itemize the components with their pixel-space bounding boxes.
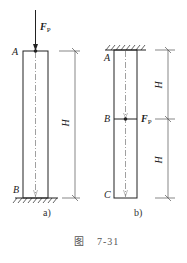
point-label-b-middle: B: [104, 114, 110, 124]
point-label-a-bottom: B: [13, 185, 19, 195]
hatch-b: [106, 45, 145, 50]
dimension-label-b-lower: H: [154, 156, 164, 163]
load-label-a: FP: [40, 22, 51, 34]
hatch-a: [13, 198, 57, 203]
panel-b: [105, 45, 175, 201]
figure-canvas: [0, 0, 187, 263]
panel-a: [13, 10, 80, 203]
figure-caption: 图7-31: [74, 237, 119, 247]
point-a-dot: [34, 49, 38, 53]
point-label-a-top: A: [12, 47, 18, 57]
caption-prefix: 图: [74, 236, 85, 247]
dimension-b: [155, 47, 175, 201]
sublabel-a: a): [43, 208, 51, 218]
point-b-dot: [124, 117, 128, 121]
dimension-label-b-upper: H: [154, 81, 164, 88]
point-label-b-top: A: [104, 53, 110, 63]
load-label-b: FP: [141, 114, 152, 126]
point-label-b-bottom: C: [104, 190, 111, 200]
dimension-label-a: H: [61, 119, 71, 126]
caption-number: 7-31: [97, 236, 119, 247]
sublabel-b: b): [134, 208, 142, 218]
